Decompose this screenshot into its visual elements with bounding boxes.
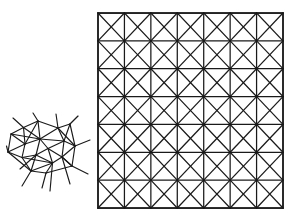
figure-canvas xyxy=(0,0,296,221)
figure-background xyxy=(0,0,296,221)
figure-container xyxy=(0,0,296,221)
